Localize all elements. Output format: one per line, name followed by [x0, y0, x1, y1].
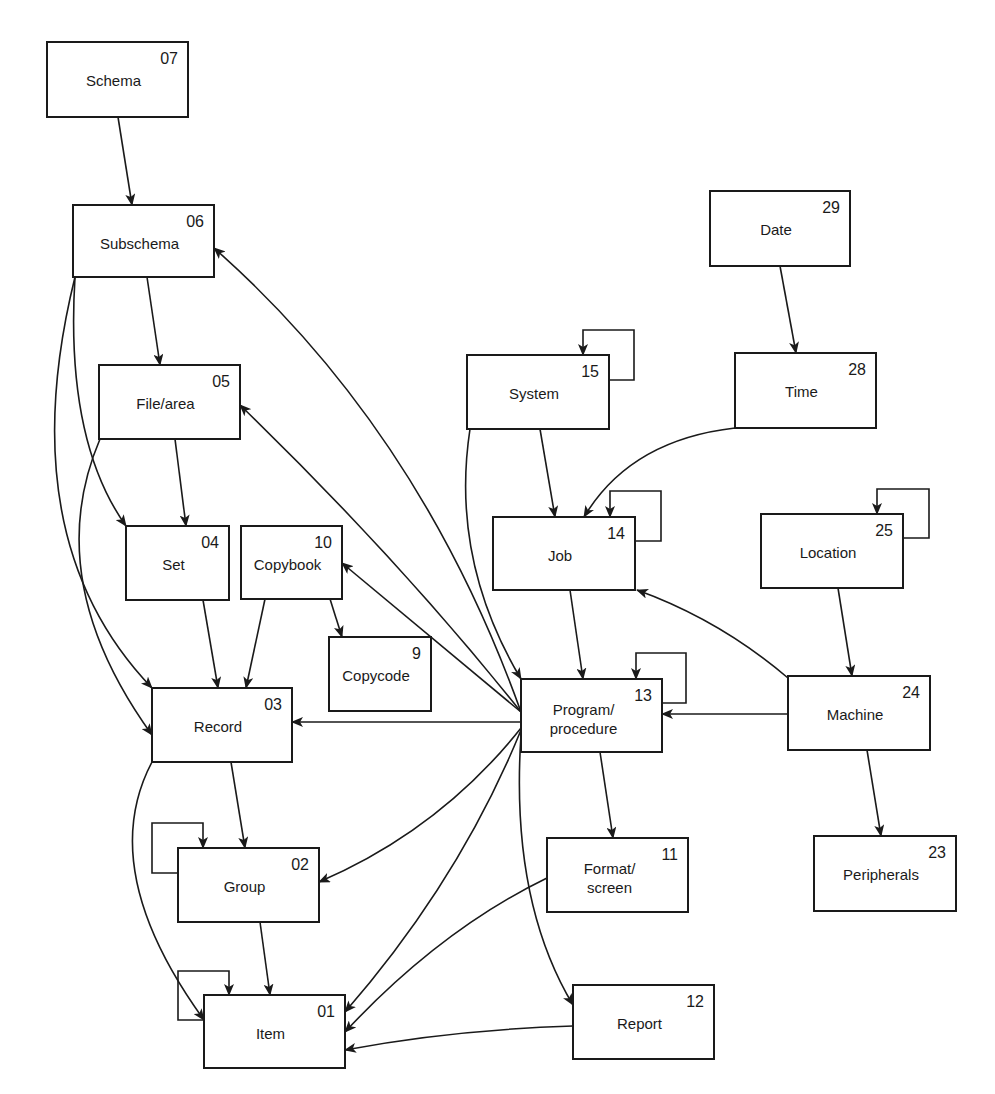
node-number: 02 — [291, 856, 309, 873]
edge-format-to-item — [345, 878, 547, 1032]
nodes-layer: 07Schema06Subschema05File/area04Set10Cop… — [47, 42, 956, 1068]
node-label: Report — [617, 1015, 663, 1032]
node-set[interactable]: 04Set — [126, 526, 229, 600]
node-label: Peripherals — [843, 866, 919, 883]
edge-date-to-time — [780, 266, 796, 353]
node-label: screen — [587, 879, 632, 896]
node-date[interactable]: 29Date — [710, 191, 850, 266]
edge-schema-to-subschema — [118, 117, 132, 205]
edge-report-to-item — [345, 1026, 573, 1050]
edge-subschema-to-record — [55, 277, 152, 688]
node-program[interactable]: 13Program/procedure — [521, 679, 662, 752]
edge-group-to-item — [260, 922, 270, 995]
node-label: Time — [785, 383, 818, 400]
data-dictionary-diagram: 07Schema06Subschema05File/area04Set10Cop… — [0, 0, 995, 1094]
node-number: 14 — [607, 525, 625, 542]
node-label: procedure — [550, 720, 618, 737]
node-label: Machine — [827, 706, 884, 723]
edge-machine-to-peripherals — [867, 750, 881, 836]
node-number: 9 — [412, 645, 421, 662]
node-label: File/area — [136, 395, 195, 412]
edge-record-to-group — [231, 762, 245, 848]
edge-system-to-job — [540, 429, 555, 517]
node-label: System — [509, 385, 559, 402]
edge-program-to-item — [345, 730, 521, 1012]
node-time[interactable]: 28Time — [735, 353, 876, 428]
node-file-area[interactable]: 05File/area — [99, 365, 240, 439]
node-number: 28 — [848, 361, 866, 378]
node-job[interactable]: 14Job — [493, 517, 635, 590]
node-item[interactable]: 01Item — [204, 995, 345, 1068]
node-machine[interactable]: 24Machine — [788, 676, 930, 750]
node-label: Record — [194, 718, 242, 735]
node-label: Location — [800, 544, 857, 561]
edge-file-area-to-set — [175, 439, 186, 526]
node-label: Program/ — [553, 701, 616, 718]
node-label: Copybook — [254, 556, 322, 573]
node-number: 15 — [581, 363, 599, 380]
node-number: 24 — [902, 684, 920, 701]
edge-machine-to-job — [637, 590, 788, 678]
edge-time-to-job — [584, 428, 735, 517]
node-subschema[interactable]: 06Subschema — [73, 205, 214, 277]
node-number: 25 — [875, 522, 893, 539]
node-number: 04 — [201, 534, 219, 551]
node-label: Group — [224, 878, 266, 895]
node-number: 10 — [314, 534, 332, 551]
node-label: Date — [760, 221, 792, 238]
edge-copybook-to-record — [246, 599, 265, 688]
node-label: Job — [548, 547, 572, 564]
node-record[interactable]: 03Record — [152, 688, 292, 762]
node-group[interactable]: 02Group — [178, 848, 319, 922]
node-label: Format/ — [584, 860, 637, 877]
node-system[interactable]: 15System — [467, 355, 609, 429]
node-format[interactable]: 11Format/screen — [547, 838, 688, 912]
node-peripherals[interactable]: 23Peripherals — [814, 836, 956, 911]
node-label: Schema — [86, 72, 142, 89]
node-label: Item — [256, 1025, 285, 1042]
node-label: Subschema — [100, 235, 180, 252]
edge-program-to-group — [319, 728, 521, 882]
node-location[interactable]: 25Location — [761, 514, 903, 588]
node-number: 23 — [928, 844, 946, 861]
node-number: 12 — [686, 993, 704, 1010]
edge-set-to-record — [203, 600, 218, 688]
node-number: 06 — [186, 213, 204, 230]
node-number: 07 — [160, 50, 178, 67]
edge-copybook-to-copycode — [330, 599, 342, 637]
node-number: 03 — [264, 696, 282, 713]
node-number: 13 — [634, 687, 652, 704]
node-copybook[interactable]: 10Copybook — [241, 526, 342, 599]
edge-location-to-machine — [838, 588, 852, 676]
node-number: 29 — [822, 199, 840, 216]
node-label: Copycode — [342, 667, 410, 684]
node-label: Set — [162, 556, 185, 573]
node-number: 01 — [317, 1003, 335, 1020]
edge-program-to-format — [600, 752, 613, 838]
node-copycode[interactable]: 9Copycode — [329, 637, 431, 711]
node-number: 05 — [212, 373, 230, 390]
edge-subschema-to-file-area — [147, 277, 160, 365]
edge-job-to-program — [570, 590, 583, 679]
node-number: 11 — [661, 846, 678, 863]
node-report[interactable]: 12Report — [573, 985, 714, 1059]
node-schema[interactable]: 07Schema — [47, 42, 188, 117]
